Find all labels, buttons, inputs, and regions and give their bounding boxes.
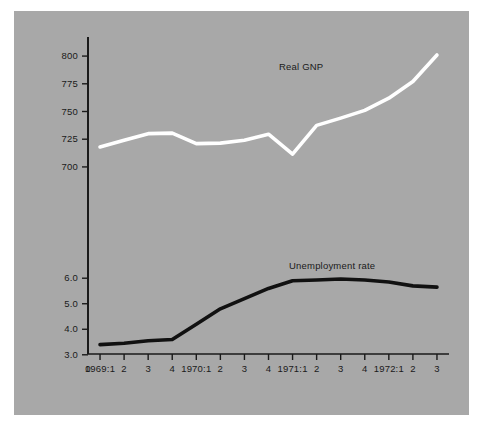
y-axis-tick-label: 4.0 (32, 323, 78, 334)
y-axis-tick-label: 725 (32, 133, 78, 144)
series-label-unemployment-rate: Unemployment rate (289, 260, 375, 271)
y-axis-tick-label: 750 (32, 106, 78, 117)
series-line-unemployment-rate (100, 279, 437, 345)
axis-lines (88, 37, 449, 354)
y-axis-tick-label: 700 (32, 161, 78, 172)
x-axis-ticks (100, 354, 437, 360)
chart-figure: 800775750725700 6.05.04.03.0 1969:123419… (14, 11, 469, 415)
y-axis-tick-label: 800 (32, 50, 78, 61)
chart-plot-area (14, 11, 469, 415)
y-axis-tick-label: 5.0 (32, 298, 78, 309)
series-line-real-gnp (100, 55, 437, 154)
x-axis-tick-label: 3 (411, 363, 463, 374)
series-label-real-gnp: Real GNP (279, 61, 323, 72)
y-axis-tick-label: 3.0 (32, 349, 78, 360)
x-axis-origin-label: 0 (62, 363, 114, 374)
y-axis-tick-label: 775 (32, 78, 78, 89)
y-axis-tick-label: 6.0 (32, 272, 78, 283)
